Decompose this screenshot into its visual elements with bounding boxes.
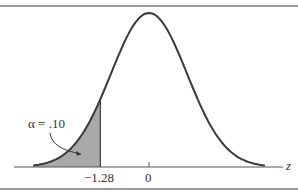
alpha-annotation: α = .10 <box>28 116 65 132</box>
normal-curve-plot <box>0 0 298 194</box>
z-axis-label: z <box>286 158 291 174</box>
shaded-tail-region <box>33 99 100 167</box>
zero-label: 0 <box>145 170 152 186</box>
normal-curve <box>33 13 265 166</box>
critical-value-label: −1.28 <box>84 170 114 186</box>
normal-distribution-figure: α = .10 −1.28 0 z <box>0 0 298 194</box>
